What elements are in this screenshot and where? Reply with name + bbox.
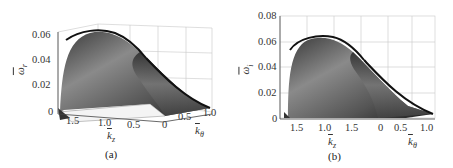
kz-tick: 0.5: [127, 120, 140, 131]
z-tick: 0: [272, 114, 277, 125]
kz-tick: 1.0: [98, 118, 111, 129]
ktheta-tick: 1.0: [203, 108, 216, 119]
x-axis-label-ktheta: kθ: [195, 124, 204, 139]
z-tick: 0.06: [258, 37, 276, 48]
chart-panel-b: 0.08 0.06 0.04 0.02 0 ωi 1.5 1.0 1.5 0 0…: [228, 0, 453, 168]
kz-tick: 1.5: [345, 123, 358, 134]
surface-plot-b: [228, 0, 453, 168]
caption-b: (b): [328, 150, 341, 162]
x-axis-label-ktheta: kθ: [408, 135, 417, 150]
z-tick: 0.06: [32, 30, 50, 41]
x-axis-label-kz: kz: [107, 129, 115, 144]
y-axis-label: ωi: [239, 65, 254, 75]
ktheta-tick: 0.5: [394, 123, 407, 134]
x-axis-label-kz: kz: [328, 135, 336, 150]
kz-tick: 1.5: [66, 116, 79, 127]
z-tick: 0.02: [258, 88, 276, 99]
kz-tick: 1.0: [318, 123, 331, 134]
y-axis-label: ωr: [14, 64, 29, 75]
z-tick: 0.02: [32, 80, 50, 91]
z-tick: 0.04: [258, 62, 276, 73]
z-tick: 0: [48, 107, 53, 118]
chart-panel-a: 0.06 0.04 0.02 0 ωr 1.5 1.0 0.5 0 0.5 1.…: [0, 0, 228, 168]
ktheta-tick: 1.0: [420, 123, 433, 134]
kz-tick: 0: [378, 123, 383, 134]
kz-tick: 0: [162, 120, 167, 131]
kz-tick: 1.5: [290, 123, 303, 134]
z-tick: 0.04: [32, 55, 50, 66]
z-tick: 0.08: [258, 11, 276, 22]
caption-a: (a): [105, 148, 117, 160]
ktheta-tick: 0.5: [178, 112, 191, 123]
